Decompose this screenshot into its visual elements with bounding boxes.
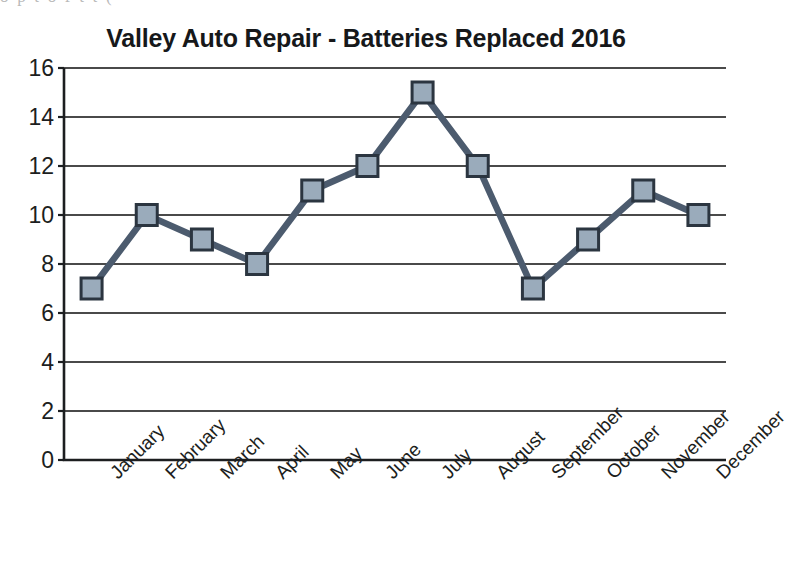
data-point-marker xyxy=(81,278,102,299)
y-tick-label: 8 xyxy=(8,251,54,278)
y-tick-label: 2 xyxy=(8,398,54,425)
data-point-marker xyxy=(633,180,654,201)
data-point-marker xyxy=(302,180,323,201)
data-point-marker xyxy=(191,229,212,250)
y-tick-label: 0 xyxy=(8,447,54,474)
data-point-marker xyxy=(467,156,488,177)
data-line xyxy=(92,93,699,289)
y-tick-label: 4 xyxy=(8,349,54,376)
data-point-marker xyxy=(247,254,268,275)
y-tick-label: 14 xyxy=(8,104,54,131)
data-point-marker xyxy=(357,156,378,177)
data-point-marker xyxy=(688,205,709,226)
y-tick-label: 10 xyxy=(8,202,54,229)
y-tick-label: 6 xyxy=(8,300,54,327)
data-markers xyxy=(81,82,709,299)
y-tick-label: 16 xyxy=(8,55,54,82)
y-tick-label: 12 xyxy=(8,153,54,180)
data-point-marker xyxy=(522,278,543,299)
data-point-marker xyxy=(136,205,157,226)
data-point-marker xyxy=(412,82,433,103)
data-point-marker xyxy=(578,229,599,250)
gridlines xyxy=(64,68,726,411)
